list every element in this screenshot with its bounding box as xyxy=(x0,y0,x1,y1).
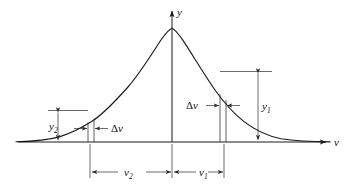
delta-v-right-label: Δv xyxy=(186,99,198,111)
distribution-figure: y v Δv Δv y2 y1 v2 v1 xyxy=(0,0,354,187)
figure-canvas: y v Δv Δv y2 y1 v2 v1 xyxy=(0,0,354,187)
x-axis-label: v xyxy=(334,136,339,148)
y-axis-label: y xyxy=(176,6,182,18)
distribution-curve xyxy=(16,28,330,142)
delta-v-left-label: Δv xyxy=(111,122,123,134)
y1-label: y1 xyxy=(261,100,271,115)
distribution-curve-group xyxy=(16,28,330,142)
v2-label: v2 xyxy=(124,166,133,181)
y2-label: y2 xyxy=(48,120,58,135)
axis-group xyxy=(18,11,326,142)
v1-label: v1 xyxy=(199,166,208,181)
